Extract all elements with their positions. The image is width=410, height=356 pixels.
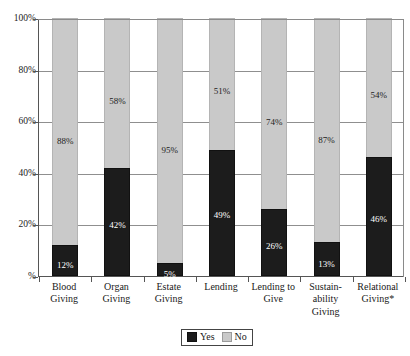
bar-label-yes: 5% (158, 270, 182, 279)
bar-label-yes: 13% (315, 260, 339, 269)
x-axis-label-6: RelationalGiving* (349, 281, 407, 306)
y-axis-tick-0 (33, 277, 38, 278)
y-axis-tick-label-80: 80% (0, 65, 36, 75)
bar-label-yes: 49% (210, 211, 234, 220)
gray-square-swatch-icon (222, 332, 232, 342)
legend-item-yes: Yes (187, 331, 215, 343)
bar-segment-yes: 13% (314, 242, 340, 276)
bar-segment-no: 95% (157, 18, 183, 263)
bar-segment-yes: 12% (52, 245, 78, 276)
bar-label-no: 88% (53, 137, 77, 146)
legend-label-no: No (235, 331, 247, 343)
bar-label-no: 54% (367, 91, 391, 100)
x-axis-label-1: OrganGiving (87, 281, 145, 306)
x-axis-label-2: EstateGiving (140, 281, 198, 306)
bar-label-no: 87% (315, 136, 339, 145)
y-axis-tick-label-0: % (0, 271, 36, 281)
plot-area: 88%12%58%42%95%5%51%49%74%26%87%13%54%46… (38, 19, 404, 277)
x-axis-label-3: Lending (192, 281, 250, 293)
legend-label-yes: Yes (200, 331, 215, 343)
bar-segment-no: 51% (209, 18, 235, 150)
bar-segment-yes: 5% (157, 263, 183, 276)
bar-segment-yes: 49% (209, 150, 235, 276)
bar-label-yes: 26% (262, 242, 286, 251)
bar-label-no: 58% (105, 97, 129, 106)
x-axis-label-5: Sustain-abilityGiving (296, 281, 354, 318)
bar-column: 54%46% (366, 19, 392, 276)
bar-column: 58%42% (104, 19, 130, 276)
bar-segment-no: 54% (366, 18, 392, 157)
bar-label-yes: 46% (367, 215, 391, 224)
bar-label-no: 51% (210, 87, 234, 96)
bar-segment-no: 74% (261, 18, 287, 209)
bar-segment-no: 88% (52, 18, 78, 245)
bar-segment-yes: 42% (104, 168, 130, 276)
bar-segment-no: 87% (314, 18, 340, 242)
black-square-swatch-icon (187, 332, 197, 342)
y-axis-tick-label-40: 40% (0, 168, 36, 178)
y-axis-tick-label-20: 20% (0, 219, 36, 229)
y-axis-tick-label-60: 60% (0, 116, 36, 126)
x-axis-category-labels: BloodGivingOrganGivingEstateGivingLendin… (38, 281, 404, 327)
bar-segment-yes: 26% (261, 209, 287, 276)
bar-label-yes: 12% (53, 261, 77, 270)
bar-column: 87%13% (314, 19, 340, 276)
bar-label-yes: 42% (105, 221, 129, 230)
bar-column: 74%26% (261, 19, 287, 276)
legend-item-no: No (222, 331, 247, 343)
x-axis-label-0: BloodGiving (35, 281, 93, 306)
bar-column: 95%5% (157, 19, 183, 276)
bar-column: 88%12% (52, 19, 78, 276)
bar-label-no: 95% (158, 146, 182, 155)
stacked-bar-chart: %20%40%60%80%100% 88%12%58%42%95%5%51%49… (0, 0, 410, 356)
chart-legend: Yes No (181, 329, 253, 346)
bar-label-no: 74% (262, 118, 286, 127)
bar-segment-no: 58% (104, 18, 130, 168)
y-axis-tick-label-100: 100% (0, 13, 36, 23)
bar-column: 51%49% (209, 19, 235, 276)
bar-segment-yes: 46% (366, 157, 392, 276)
x-axis-label-4: Lending toGive (244, 281, 302, 306)
